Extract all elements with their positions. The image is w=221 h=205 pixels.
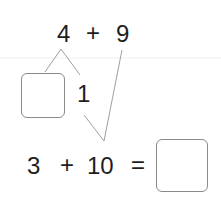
split-part-number: 1 xyxy=(77,82,90,106)
top-left-number: 4 xyxy=(57,22,70,46)
answer-box[interactable] xyxy=(156,139,208,192)
bottom-operator-plus: + xyxy=(60,153,74,177)
bottom-right-number: 10 xyxy=(87,154,114,178)
top-right-number: 9 xyxy=(116,22,129,46)
bond-line-9-to-10 xyxy=(104,50,122,141)
equals-sign: = xyxy=(131,153,145,177)
split-blank-box[interactable] xyxy=(21,73,65,118)
bond-line-4-to-box xyxy=(45,49,61,72)
bond-line-4-to-1 xyxy=(61,49,80,75)
bottom-left-number: 3 xyxy=(27,154,40,178)
top-operator-plus: + xyxy=(86,21,100,45)
bond-line-1-to-10 xyxy=(84,115,104,141)
